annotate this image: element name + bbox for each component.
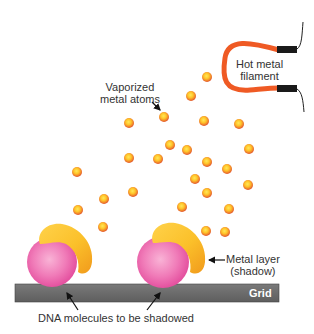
connector-top [277, 46, 297, 53]
atoms-label-line2: metal atoms [100, 93, 160, 105]
dna-label: DNA molecules to be shadowed [38, 312, 194, 324]
filament-label: Hot metal filament [236, 58, 283, 82]
atom-icon [165, 140, 175, 150]
atom-icon [224, 204, 234, 214]
atom-icon [243, 180, 253, 190]
atom-icon [244, 144, 254, 154]
atom-icon [190, 174, 200, 184]
connector-bottom [277, 85, 297, 92]
atom-icon [98, 222, 108, 232]
dna-molecule-left [27, 224, 92, 287]
atom-icon [186, 91, 196, 101]
grid-label: Grid [249, 287, 272, 299]
atom-icon [153, 154, 163, 164]
atom-icon [159, 112, 169, 122]
atom-icon [202, 157, 212, 167]
atom-icon [222, 164, 232, 174]
filament-label-line2: filament [236, 70, 283, 82]
atom-icon [128, 187, 138, 197]
atom-icon [177, 202, 187, 212]
atom-icon [73, 205, 83, 215]
filament-label-line1: Hot metal [236, 58, 283, 70]
atom-icon [72, 167, 82, 177]
atoms-label: Vaporized metal atoms [100, 81, 160, 105]
atom-icon [199, 116, 209, 126]
atom-icon [202, 188, 212, 198]
metal-layer-label-line1: Metal layer [226, 253, 280, 265]
dna-molecule-right [137, 223, 205, 288]
metal-layer-label: Metal layer (shadow) [226, 253, 280, 277]
atom-icon [220, 227, 230, 237]
shadowing-diagram [0, 0, 314, 334]
atoms-label-line1: Vaporized [100, 81, 160, 93]
atom-icon [124, 153, 134, 163]
atom-icon [202, 72, 212, 82]
atom-icon [234, 119, 244, 129]
atom-icon [182, 145, 192, 155]
atom-icon [124, 118, 134, 128]
metal-layer-label-line2: (shadow) [226, 265, 280, 277]
atom-icon [99, 194, 109, 204]
atom-icon [201, 226, 211, 236]
